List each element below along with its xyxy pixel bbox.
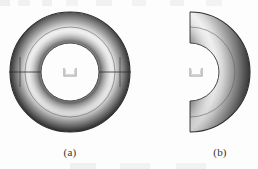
scan-artifact-bottom [0,163,258,169]
full-torus-drawing [6,11,134,133]
figure-panel-a [6,11,134,133]
panel-caption-a: (a) [30,147,110,158]
half-torus-drawing [186,11,252,133]
figure-page: (a) (b) [0,0,258,169]
figure-panel-b [186,11,252,133]
panel-caption-b: (b) [185,147,255,158]
scan-artifact-top [0,0,258,6]
